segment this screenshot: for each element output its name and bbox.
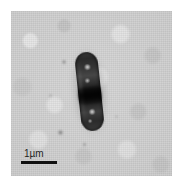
- micrograph-image: 1µm: [11, 11, 172, 176]
- scale-bar-line: [21, 161, 57, 164]
- debris-speck: [58, 130, 63, 135]
- micrograph-figure: 1µm: [0, 0, 182, 186]
- debris-speck: [115, 115, 118, 118]
- bacterium-cell: [74, 51, 105, 132]
- debris-speck: [62, 60, 66, 64]
- scale-bar: 1µm: [16, 148, 76, 164]
- debris-speck: [49, 94, 52, 97]
- debris-speck: [83, 143, 86, 146]
- scale-bar-label: 1µm: [16, 148, 76, 159]
- cell-dense-band: [78, 86, 103, 105]
